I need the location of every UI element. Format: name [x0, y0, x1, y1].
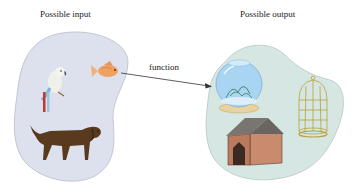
input-set-blob	[14, 32, 128, 181]
fishbowl-icon	[216, 60, 262, 113]
diagram-canvas	[0, 0, 358, 190]
function-arrow	[121, 73, 209, 86]
